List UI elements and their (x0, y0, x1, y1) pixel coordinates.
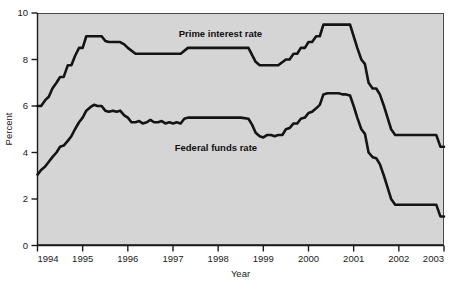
y-tick-label: 10 (17, 7, 28, 18)
y-tick-label: 8 (23, 54, 28, 65)
x-tick-label: 2003 (423, 253, 444, 264)
y-tick-label: 0 (23, 240, 28, 251)
x-axis-title: Year (231, 268, 250, 279)
y-tick-label: 2 (23, 193, 28, 204)
x-tick-label: 1997 (162, 253, 183, 264)
y-tick-label: 4 (23, 147, 28, 158)
interest-rates-line-chart: 0246810 19941995199619971998199920002001… (0, 0, 466, 285)
x-tick-label: 1994 (38, 253, 59, 264)
x-tick-label: 2002 (388, 253, 409, 264)
y-tick-label: 6 (23, 100, 28, 111)
series-annotation-federal-funds-rate: Federal funds rate (175, 142, 257, 153)
figure-container: 0246810 19941995199619971998199920002001… (0, 0, 466, 285)
x-tick-label: 1995 (72, 253, 93, 264)
x-tick-label: 2001 (343, 253, 364, 264)
x-tick-label: 2000 (298, 253, 319, 264)
x-tick-label: 1999 (253, 253, 274, 264)
x-tick-label: 1998 (208, 253, 229, 264)
y-axis-title: Percent (3, 112, 14, 145)
series-annotation-prime-interest-rate: Prime interest rate (179, 28, 262, 39)
x-tick-label: 1996 (117, 253, 138, 264)
